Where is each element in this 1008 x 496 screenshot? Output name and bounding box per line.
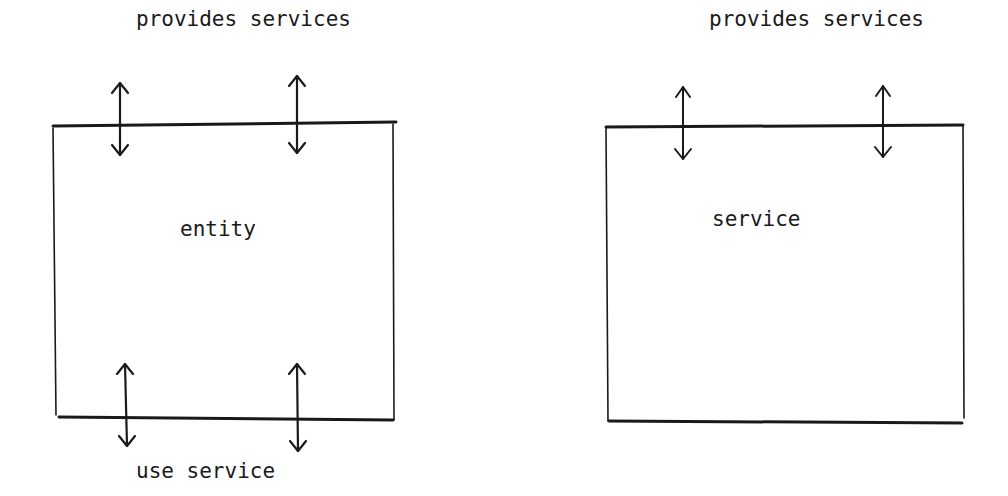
provides-service-arrow-icon (675, 87, 691, 159)
use-service-arrow-icon (289, 364, 306, 451)
entity-box-right-edge (393, 124, 394, 420)
provides-service-arrow-icon (112, 83, 128, 155)
entity-box-left-edge (53, 128, 56, 415)
entity-bottom-label: use service (136, 459, 275, 483)
entity-box-top-edge (53, 122, 396, 126)
entity-box-label: entity (180, 217, 256, 241)
entity-box-bottom-edge (59, 417, 393, 420)
service-box-bottom-edge (609, 421, 962, 423)
service-box-right-edge (963, 126, 964, 418)
service-diagram: provides services service (606, 7, 964, 423)
use-service-arrow-icon (117, 364, 135, 446)
service-top-label: provides services (709, 7, 924, 31)
service-box-left-edge (606, 128, 608, 421)
provides-service-arrow-icon (289, 76, 305, 153)
entity-diagram: provides services entity use (53, 7, 396, 483)
service-box-top-edge (606, 125, 963, 127)
service-box-label: service (712, 207, 801, 231)
provides-service-arrow-icon (875, 86, 891, 157)
diagram-canvas: provides services entity use (0, 0, 1008, 496)
entity-top-label: provides services (136, 7, 351, 31)
